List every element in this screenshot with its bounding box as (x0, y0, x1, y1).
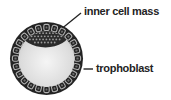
leader-line-inner-cell-mass (63, 13, 82, 28)
trophoblast-label: trophoblast (96, 62, 153, 75)
blastocyst-figure: inner cell mass trophoblast (0, 0, 171, 100)
inner-cell-mass-label: inner cell mass (84, 5, 159, 18)
